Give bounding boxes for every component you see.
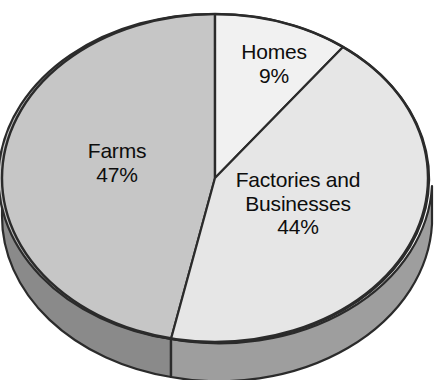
pie-label-homes-name: Homes	[218, 40, 330, 64]
pie-chart: Homes 9% Farms 47% Factories and Busines…	[0, 0, 439, 380]
pie-label-homes-value: 9%	[218, 64, 330, 88]
pie-label-factories-value: 44%	[222, 215, 374, 239]
pie-label-factories-name-line1: Factories and	[222, 168, 374, 192]
pie-label-farms: Farms 47%	[52, 139, 182, 186]
pie-label-factories: Factories and Businesses 44%	[222, 168, 374, 239]
pie-label-homes: Homes 9%	[218, 40, 330, 87]
pie-label-farms-name: Farms	[52, 139, 182, 163]
pie-label-farms-value: 47%	[52, 163, 182, 187]
pie-label-factories-name-line2: Businesses	[222, 192, 374, 216]
